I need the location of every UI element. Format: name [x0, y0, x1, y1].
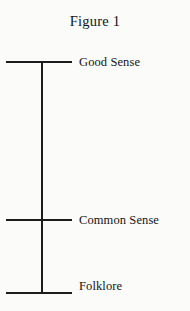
tick-label-good-sense: Good Sense	[79, 55, 140, 69]
tick-mark-good-sense	[6, 61, 72, 63]
tick-label-folklore: Folklore	[79, 279, 122, 293]
scale-diagram: Good Sense Common Sense Folklore	[0, 0, 190, 311]
tick-mark-common-sense	[6, 219, 72, 221]
tick-label-common-sense: Common Sense	[79, 213, 159, 227]
tick-mark-folklore	[6, 292, 72, 294]
axis-vertical-line	[41, 62, 43, 293]
figure-container: Figure 1 Good Sense Common Sense Folklor…	[0, 0, 190, 311]
